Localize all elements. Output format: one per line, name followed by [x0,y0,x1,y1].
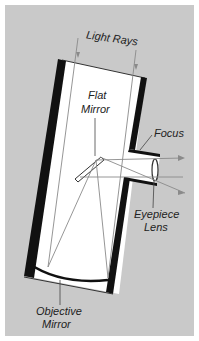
label-flat-mirror-2: Mirror [81,103,110,115]
label-objective-2: Mirror [42,318,71,330]
telescope-diagram [0,0,199,341]
label-objective-1: Objective [36,305,82,317]
label-eyepiece-2: Lens [144,221,168,233]
label-focus: Focus [154,127,184,139]
eyepiece-lens [152,159,158,181]
label-eyepiece-1: Eyepiece [134,208,179,220]
label-flat-mirror-1: Flat [88,89,106,101]
